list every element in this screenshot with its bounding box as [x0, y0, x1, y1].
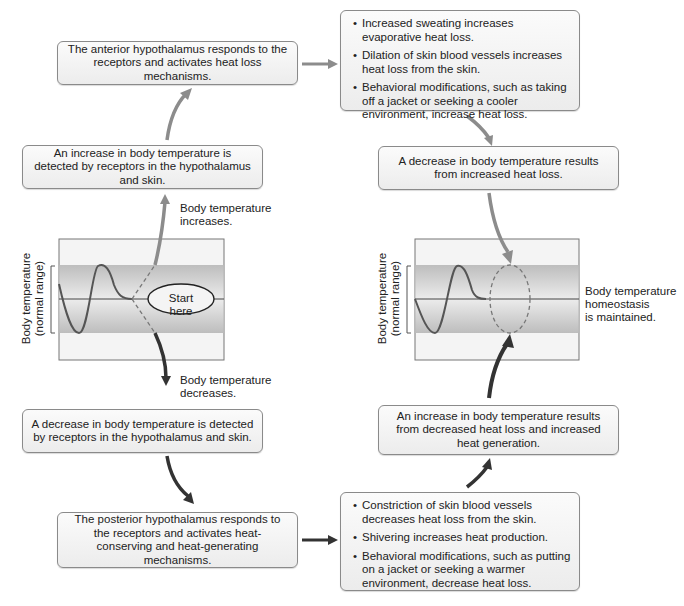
decrease-detected-box: A decrease in body temperature is detect… — [22, 409, 263, 453]
heat-gain-mechanisms-box: Constriction of skin blood vessels decre… — [340, 492, 580, 591]
increase-detected-text: An increase in body temperature is detec… — [31, 147, 254, 188]
decrease-result-box: A decrease in body temperature results f… — [378, 146, 619, 190]
increase-detected-box: An increase in body temperature is detec… — [22, 145, 263, 189]
posterior-hypothalamus-text: The posterior hypothalamus responds to t… — [66, 513, 289, 567]
increase-result-box: An increase in body temperature results … — [378, 405, 619, 455]
decreases-label: Body temperature decreases. — [180, 374, 271, 400]
decrease-detected-text: A decrease in body temperature is detect… — [31, 418, 254, 445]
start-here-label: Start here — [163, 292, 199, 318]
list-item: Behavioral modifications, such as taking… — [353, 81, 571, 122]
list-item: Constriction of skin blood vessels decre… — [353, 499, 571, 526]
list-item: Increased sweating increases evaporative… — [353, 17, 571, 44]
list-item: Shivering increases heat production. — [353, 531, 571, 545]
right-temperature-graph — [407, 239, 579, 360]
homeostasis-label: Body temperature homeostasis is maintain… — [585, 285, 676, 324]
posterior-hypothalamus-box: The posterior hypothalamus responds to t… — [57, 512, 298, 568]
list-item: Behavioral modifications, such as puttin… — [353, 550, 571, 591]
anterior-hypothalamus-box: The anterior hypothalamus responds to th… — [57, 41, 298, 85]
right-graph-ylabel: Body temperature (normal range) — [376, 249, 401, 349]
decrease-result-text: A decrease in body temperature results f… — [387, 155, 610, 182]
heat-loss-mechanisms-box: Increased sweating increases evaporative… — [340, 10, 580, 111]
increase-result-text: An increase in body temperature results … — [387, 410, 610, 451]
list-item: Dilation of skin blood vessels increases… — [353, 49, 571, 76]
anterior-hypothalamus-text: The anterior hypothalamus responds to th… — [66, 43, 289, 84]
left-graph-ylabel: Body temperature (normal range) — [20, 249, 45, 349]
heat-loss-list: Increased sweating increases evaporative… — [353, 17, 571, 122]
increases-label: Body temperature increases. — [180, 202, 271, 228]
heat-gain-list: Constriction of skin blood vessels decre… — [353, 499, 571, 590]
